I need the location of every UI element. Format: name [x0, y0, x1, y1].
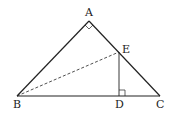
label-a: A: [84, 6, 94, 19]
label-d: D: [115, 98, 124, 111]
segment-be-dashed: [17, 52, 119, 96]
label-c: C: [156, 98, 164, 111]
label-b: B: [13, 98, 21, 111]
triangle-figure: A B C D E: [0, 0, 171, 116]
segment-ac: [89, 21, 160, 96]
segment-ab: [17, 21, 89, 96]
label-e: E: [122, 43, 130, 56]
right-angle-mark-a: [85, 25, 93, 29]
geometry-diagram: A B C D E: [0, 0, 171, 116]
right-angle-mark-d: [119, 90, 125, 96]
